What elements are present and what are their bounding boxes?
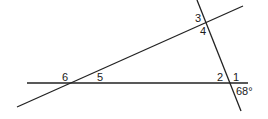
angle-label-4: 4 [200, 26, 206, 37]
angle-label-1: 1 [233, 72, 239, 83]
triangle-angle-diagram [0, 0, 268, 119]
angle-label-5: 5 [97, 72, 103, 83]
angle-label-2: 2 [217, 72, 223, 83]
long-diagonal-line [17, 6, 243, 107]
given-angle-68-label: 68° [236, 86, 253, 97]
angle-label-6: 6 [62, 72, 68, 83]
angle-label-3: 3 [195, 13, 201, 24]
